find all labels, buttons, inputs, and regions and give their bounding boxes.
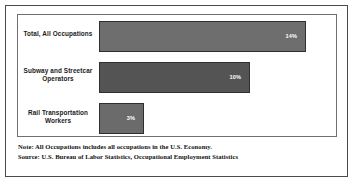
category-label-line: Operators [18,75,98,83]
chart-figure: Total, All Occupations 14% Subway and St… [0,0,353,182]
bar-total-all-occupations: 14% [99,21,306,52]
category-label-line: Workers [18,117,98,125]
source-text: Source: U.S. Bureau of Labor Statistics,… [18,152,338,162]
category-label-line: Rail Transportation [18,109,98,117]
category-label-line: Total, All Occupations [18,30,98,38]
note-text: Note: All Occupations includes all occup… [18,142,338,152]
plot-area: Total, All Occupations 14% Subway and St… [17,14,337,137]
bar-row: Rail Transportation Workers 3% [18,97,336,138]
category-label-rail-transportation-workers: Rail Transportation Workers [18,109,98,125]
category-label-subway-and-streetcar-operators: Subway and Streetcar Operators [18,67,98,83]
bar-row: Subway and Streetcar Operators 10% [18,56,336,97]
bar-value-label: 3% [127,115,135,121]
bar-value-label: 10% [230,74,242,80]
bar-rail-transportation-workers: 3% [99,103,144,134]
plot-inner: Total, All Occupations 14% Subway and St… [18,15,336,136]
bar-row: Total, All Occupations 14% [18,15,336,56]
bar-subway-and-streetcar-operators: 10% [99,62,250,93]
bar-value-label: 14% [286,33,298,39]
footnotes: Note: All Occupations includes all occup… [18,142,338,162]
category-label-line: Subway and Streetcar [18,67,98,75]
category-label-total-all-occupations: Total, All Occupations [18,30,98,38]
